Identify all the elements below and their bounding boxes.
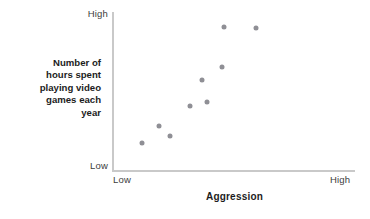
y-axis-title: Number of hours spent playing video game… [6, 57, 101, 119]
y-axis-title-line: hours spent [6, 69, 101, 81]
x-axis-tick-low: Low [113, 174, 131, 185]
y-axis-tick-low: Low [90, 160, 108, 171]
data-point [199, 78, 204, 83]
data-point [168, 134, 173, 139]
data-point [188, 103, 193, 108]
y-axis-title-line: year [6, 107, 101, 119]
y-axis-title-line: playing video [6, 82, 101, 94]
data-point [220, 65, 225, 70]
data-point [254, 26, 259, 31]
scatter-plot-figure: High Low Low High Number of hours spent … [0, 0, 370, 219]
y-axis-tick-high: High [88, 8, 108, 19]
data-point [139, 141, 144, 146]
data-point [156, 124, 161, 129]
data-point [222, 24, 227, 29]
y-axis-title-line: games each [6, 94, 101, 106]
plot-area [112, 12, 355, 171]
x-axis-tick-high: High [330, 174, 350, 185]
data-point [205, 99, 210, 104]
y-axis-title-line: Number of [6, 57, 101, 69]
x-axis-title: Aggression [113, 191, 356, 202]
